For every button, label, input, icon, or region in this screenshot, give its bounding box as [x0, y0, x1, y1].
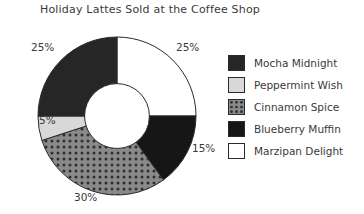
slice-label-marzipan-delight: 25% — [176, 41, 199, 53]
legend-item-mocha-midnight: Mocha Midnight — [228, 52, 362, 74]
legend-swatch-peppermint-wish — [228, 77, 245, 93]
chart-title: Holiday Lattes Sold at the Coffee Shop — [0, 3, 300, 16]
legend-label-peppermint-wish: Peppermint Wish — [254, 79, 343, 91]
legend-swatch-mocha-midnight — [228, 55, 245, 71]
slice-label-blueberry-muffin: 15% — [192, 142, 215, 154]
slice-label-peppermint-wish: 5% — [39, 114, 56, 126]
legend-item-blueberry-muffin: Blueberry Muffin — [228, 118, 362, 140]
donut-chart — [37, 36, 197, 196]
legend-item-marzipan-delight: Marzipan Delight — [228, 140, 362, 162]
legend-swatch-blueberry-muffin — [228, 121, 245, 137]
donut-chart-svg — [37, 36, 197, 196]
legend-label-marzipan-delight: Marzipan Delight — [254, 145, 343, 157]
legend-label-blueberry-muffin: Blueberry Muffin — [254, 123, 341, 135]
legend-swatch-cinnamon-spice — [228, 99, 245, 115]
legend-label-cinnamon-spice: Cinnamon Spice — [254, 101, 339, 113]
chart-legend: Mocha Midnight Peppermint Wish Cinnamon … — [228, 52, 362, 162]
slice-label-cinnamon-spice: 30% — [74, 191, 97, 203]
donut-slices — [38, 37, 196, 195]
legend-swatch-marzipan-delight — [228, 143, 245, 159]
slice-label-mocha-midnight: 25% — [31, 41, 54, 53]
legend-item-cinnamon-spice: Cinnamon Spice — [228, 96, 362, 118]
legend-item-peppermint-wish: Peppermint Wish — [228, 74, 362, 96]
legend-label-mocha-midnight: Mocha Midnight — [254, 57, 337, 69]
